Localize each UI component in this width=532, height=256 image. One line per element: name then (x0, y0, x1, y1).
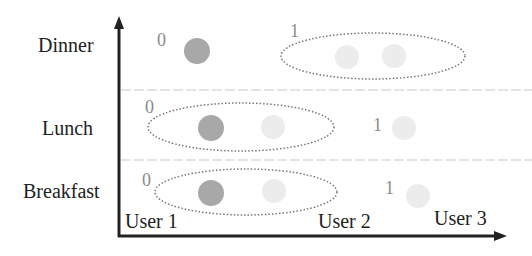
meal-user-grouping-diagram: Dinner Lunch Breakfast User 1 User 2 Use… (0, 0, 532, 256)
dinner-user1-index: 0 (157, 31, 166, 49)
breakfast-user3-dot (406, 184, 430, 208)
row-label-lunch: Lunch (42, 118, 93, 138)
lunch-user2-dot (261, 115, 285, 139)
breakfast-group-index: 0 (142, 171, 151, 189)
row-label-dinner: Dinner (38, 35, 94, 55)
row-label-breakfast: Breakfast (23, 181, 100, 201)
lunch-group-index: 0 (145, 98, 154, 116)
breakfast-user2-dot (262, 179, 286, 203)
dinner-group-index: 1 (290, 22, 299, 40)
user-label-2: User 2 (318, 211, 371, 231)
lunch-user1-dot (198, 115, 224, 141)
dinner-group-ellipse (281, 33, 465, 79)
breakfast-group-ellipse (155, 169, 337, 215)
breakfast-user1-dot (198, 180, 224, 206)
dinner-user2-dot (335, 45, 359, 69)
user-label-3: User 3 (434, 208, 487, 228)
lunch-group-ellipse (148, 103, 334, 151)
user-label-1: User 1 (125, 211, 178, 231)
y-axis-arrow-icon (114, 16, 124, 29)
breakfast-user3-index: 1 (385, 179, 394, 197)
dinner-user1-dot (184, 38, 210, 64)
dinner-user3-dot (382, 44, 406, 68)
lunch-user3-index: 1 (373, 116, 382, 134)
x-axis-arrow-icon (494, 231, 507, 241)
lunch-user3-dot (392, 116, 416, 140)
